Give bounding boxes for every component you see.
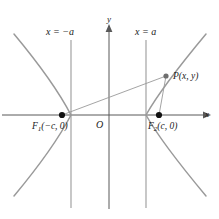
focus-point-f1 [59,112,65,118]
hyperbola-figure: x = −a x = a y x O F1(−c, 0) F2(c, 0) P(… [0,0,219,219]
focus-left-label: F1(−c, 0) [32,122,68,132]
directrix-left-label: x = −a [46,27,74,37]
focus-point-f2 [156,112,162,118]
focus-left-name: F [32,121,38,131]
y-axis-arrow-icon [106,24,113,32]
y-axis-label: y [107,15,111,24]
hyperbola-canvas [0,0,219,219]
point-p-marker [163,73,168,78]
focus-left-coords: (−c, 0) [41,121,67,131]
focus-right-label: F2(c, 0) [148,122,177,132]
directrix-right-label: x = a [135,27,156,37]
focal-radius-f1-p [62,76,166,115]
point-p-label: P(x, y) [173,72,198,82]
origin-label: O [96,120,103,130]
focus-right-name: F [148,121,154,131]
x-axis-label: x [205,110,209,119]
focus-right-subscript: 2 [154,125,158,133]
focus-right-coords: (c, 0) [157,121,177,131]
focal-radius-f2-p [159,76,166,115]
focus-left-subscript: 1 [38,125,42,133]
y-axis [106,24,113,209]
x-axis [2,112,211,119]
